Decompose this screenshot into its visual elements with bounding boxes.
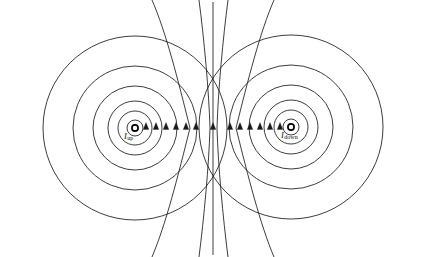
midline-arrowheads	[143, 123, 283, 130]
arrowhead-up	[257, 123, 263, 130]
separatrix-left-inner-curve	[199, 0, 210, 257]
separatrix-right-inner-curve	[217, 0, 228, 257]
arrowhead-up	[227, 123, 233, 130]
right-wire-marker-icon	[288, 124, 294, 130]
arrowhead-up	[277, 123, 283, 130]
left-wire-marker-icon	[132, 125, 138, 131]
arrowhead-up	[153, 123, 159, 130]
arrowhead-up	[267, 123, 273, 130]
arrowhead-up	[210, 123, 216, 130]
magnetic-field-figure: Iup Idown	[0, 0, 425, 257]
arrowhead-up	[193, 123, 199, 130]
left-current-label: Iup	[124, 132, 133, 141]
arrowhead-up	[163, 123, 169, 130]
arrowhead-up	[173, 123, 179, 130]
right-current-subscript: down	[284, 134, 298, 140]
field-line-canvas	[0, 0, 425, 257]
arrowhead-up	[183, 123, 189, 130]
right-current-label: Idown	[281, 131, 298, 140]
left-current-subscript: up	[127, 135, 134, 141]
arrowhead-up	[143, 123, 149, 130]
arrowhead-up	[237, 123, 243, 130]
arrowhead-up	[247, 123, 253, 130]
